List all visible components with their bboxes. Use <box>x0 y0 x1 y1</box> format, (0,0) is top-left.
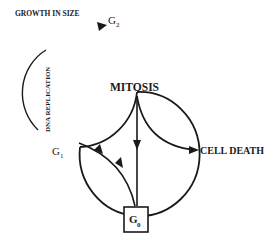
down-arrow-icon <box>133 140 141 150</box>
dna-replication-arc <box>22 50 46 130</box>
g1-subscript: 1 <box>60 152 64 160</box>
cycle-circle <box>80 92 200 216</box>
cell-death-label: CELL DEATH <box>200 145 264 156</box>
dna-replication-label: DNA REPLICATION <box>44 67 52 132</box>
cycle-circle-close <box>80 92 137 147</box>
g2-label: G <box>108 14 116 26</box>
cell-death-arrow-icon <box>189 146 199 154</box>
g2-arrow-icon <box>97 22 107 31</box>
g2-subscript: 2 <box>116 21 120 29</box>
mitosis-label: MITOSIS <box>110 81 159 93</box>
g0-subscript: 0 <box>137 221 141 229</box>
cell-cycle-diagram: GROWTH IN SIZE G 2 DNA REPLICATION MITOS… <box>0 0 277 240</box>
g1-label: G <box>52 145 60 157</box>
g0-to-g1-curve <box>79 143 135 206</box>
cell-death-curve <box>137 96 195 150</box>
growth-label: GROWTH IN SIZE <box>15 9 80 18</box>
